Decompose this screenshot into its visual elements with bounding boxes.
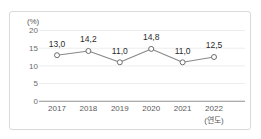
x-axis-unit-label: (연도) [192, 114, 236, 125]
chart-figure: (%) 20 15 10 5 0 13,0 14,2 11,0 14,8 11,… [0, 0, 261, 139]
y-tick-label-10: 10 [20, 62, 38, 71]
data-label-2019: 11,0 [103, 46, 137, 56]
data-label-2017: 13,0 [40, 39, 74, 49]
y-tick-label-0: 0 [20, 97, 38, 106]
y-tick-label-20: 20 [20, 26, 38, 35]
data-label-2020: 14,8 [134, 32, 168, 42]
x-tick-label-2022: 2022 [194, 104, 234, 113]
y-tick-label-15: 15 [20, 44, 38, 53]
y-axis-unit-label: (%) [27, 17, 39, 26]
data-label-2021: 11,0 [166, 46, 200, 56]
y-tick-label-5: 5 [20, 79, 38, 88]
data-label-2018: 14,2 [71, 34, 105, 44]
data-label-2022: 12,5 [197, 40, 231, 50]
